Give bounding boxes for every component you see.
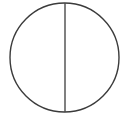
canvas-background bbox=[0, 0, 132, 127]
figure-canvas: Circle divided by a vertical diameter bbox=[0, 0, 132, 127]
bisected-circle-figure bbox=[0, 0, 132, 127]
